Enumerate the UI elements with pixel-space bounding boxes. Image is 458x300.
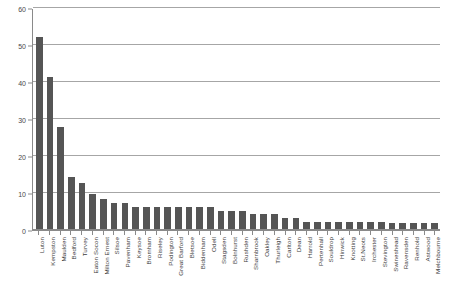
bar[interactable]	[389, 223, 396, 229]
x-axis-slot: Bromham	[140, 231, 151, 300]
bar-slot	[258, 9, 269, 229]
bar[interactable]	[196, 207, 203, 229]
bar[interactable]	[207, 207, 214, 229]
bar[interactable]	[303, 222, 310, 229]
x-axis-slot: Sharnbrook	[247, 231, 258, 300]
bar[interactable]	[239, 211, 246, 230]
x-axis-tick-mark	[103, 231, 104, 235]
bar[interactable]	[218, 211, 225, 230]
bar[interactable]	[47, 77, 54, 229]
bar[interactable]	[410, 223, 417, 229]
x-axis-tick-mark	[113, 231, 114, 235]
bar[interactable]	[89, 194, 96, 229]
y-axis-tick-label: 50	[18, 43, 26, 50]
bar-slot	[216, 9, 227, 229]
x-axis-tick-mark	[424, 231, 425, 235]
bar-series	[34, 9, 440, 229]
x-axis-tick-mark	[81, 231, 82, 235]
bar[interactable]	[57, 127, 64, 229]
x-axis-tick-mark	[231, 231, 232, 235]
bar[interactable]	[357, 222, 364, 229]
x-axis-slot: Harrold	[301, 231, 312, 300]
x-axis-tick-mark	[167, 231, 168, 235]
x-axis-slot: Milton Ernest	[97, 231, 108, 300]
bar[interactable]	[132, 207, 139, 229]
bar-chart: 0102030405060 LutonKempstonMauldenBedfor…	[0, 0, 458, 300]
x-axis-slot: Riseley	[151, 231, 162, 300]
bar[interactable]	[367, 222, 374, 229]
bar[interactable]	[175, 207, 182, 229]
bar-slot	[291, 9, 302, 229]
bar[interactable]	[399, 223, 406, 229]
bar-slot	[120, 9, 131, 229]
bar[interactable]	[260, 214, 267, 229]
bar-slot	[355, 9, 366, 229]
x-axis-slot: Melchbourne	[429, 231, 440, 300]
x-axis-tick-mark	[60, 231, 61, 235]
bar[interactable]	[271, 214, 278, 229]
bar[interactable]	[79, 183, 86, 229]
x-axis-slot: Stagsden	[215, 231, 226, 300]
x-axis-slot: Hinwick	[333, 231, 344, 300]
bar-slot	[333, 9, 344, 229]
x-axis-tick-mark	[145, 231, 146, 235]
bar[interactable]	[250, 214, 257, 229]
x-axis-slot: St.Neots	[354, 231, 365, 300]
bar[interactable]	[143, 207, 150, 229]
x-axis-tick-mark	[156, 231, 157, 235]
bar-slot	[152, 9, 163, 229]
bar-slot	[77, 9, 88, 229]
x-axis-slot: Bolnhurst	[226, 231, 237, 300]
x-axis-slot: Biddenham	[194, 231, 205, 300]
x-axis-tick-mark	[338, 231, 339, 235]
bar[interactable]	[421, 223, 428, 229]
bar[interactable]	[314, 222, 321, 229]
x-axis-tick-mark	[274, 231, 275, 235]
x-axis-tick-mark	[434, 231, 435, 235]
bar[interactable]	[346, 222, 353, 229]
x-axis-slot: Knotting	[343, 231, 354, 300]
bar[interactable]	[68, 177, 75, 229]
bar[interactable]	[36, 37, 43, 229]
x-axis-tick-mark	[135, 231, 136, 235]
bar[interactable]	[122, 203, 129, 229]
x-axis-slot: Irchester	[365, 231, 376, 300]
x-axis-tick-mark	[413, 231, 414, 235]
bar[interactable]	[100, 199, 107, 229]
bar[interactable]	[431, 223, 438, 229]
bar[interactable]	[325, 222, 332, 229]
x-axis-tick-mark	[381, 231, 382, 235]
plot-area	[32, 9, 440, 231]
y-axis-tick-label: 0	[22, 228, 26, 235]
x-axis-slot: Luton	[33, 231, 44, 300]
y-axis-tick-label: 40	[18, 80, 26, 87]
bar[interactable]	[111, 203, 118, 229]
bar-slot	[397, 9, 408, 229]
x-axis-slot: Kempston	[44, 231, 55, 300]
bar[interactable]	[164, 207, 171, 229]
bar[interactable]	[335, 222, 342, 229]
x-axis-slot: Ravensden	[397, 231, 408, 300]
bar-slot	[419, 9, 430, 229]
y-axis-tick-label: 60	[18, 6, 26, 13]
bar[interactable]	[154, 207, 161, 229]
x-axis-tick-mark	[242, 231, 243, 235]
x-axis-tick-label: Melchbourne	[434, 237, 441, 274]
bar[interactable]	[293, 218, 300, 229]
bar[interactable]	[282, 218, 289, 229]
x-axis-slot: Pertenhall	[311, 231, 322, 300]
bar-slot	[376, 9, 387, 229]
bar-slot	[173, 9, 184, 229]
bar[interactable]	[186, 207, 193, 229]
bar[interactable]	[378, 222, 385, 229]
bar[interactable]	[228, 211, 235, 230]
x-axis-tick-mark	[402, 231, 403, 235]
bar-slot	[184, 9, 195, 229]
bar-slot	[226, 9, 237, 229]
x-axis-slot: Turvey	[76, 231, 87, 300]
x-axis-slot: Eaton Socon	[87, 231, 98, 300]
x-axis-slot: Carlton	[279, 231, 290, 300]
bar-slot	[344, 9, 355, 229]
x-axis-tick-mark	[199, 231, 200, 235]
bar-slot	[55, 9, 66, 229]
